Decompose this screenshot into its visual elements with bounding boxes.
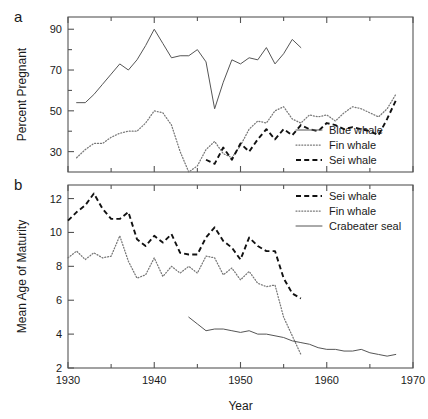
legend-label: Crabeater seal [329, 220, 401, 232]
x-axis-title: Year [228, 399, 252, 413]
series-sei-whale [68, 193, 301, 298]
y-tick-label: 4 [56, 328, 62, 340]
x-tick-label: 1960 [315, 374, 339, 386]
panel-a: 30507090Percent PregnantBlue whaleFin wh… [15, 17, 413, 172]
y-tick-label: 8 [56, 260, 62, 272]
y-tick-label: 12 [50, 193, 62, 205]
y-axis-title-b: Mean Age of Maturity [15, 220, 29, 333]
panel-label-a: a [14, 8, 23, 25]
legend-label: Sei whale [329, 190, 377, 202]
series-blue-whale [77, 29, 301, 109]
x-tick-label: 1950 [228, 374, 252, 386]
y-tick-label: 6 [56, 294, 62, 306]
legend-b: Sei whaleFin whaleCrabeater seal [296, 190, 401, 232]
x-tick-label: 1940 [142, 374, 166, 386]
x-tick-label: 1970 [401, 374, 425, 386]
series-crabeater-seal [189, 317, 396, 356]
legend-label: Fin whale [329, 139, 376, 151]
y-tick-label: 50 [50, 105, 62, 117]
y-tick-label: 2 [56, 362, 62, 374]
y-tick-label: 30 [50, 146, 62, 158]
y-axis-title-a: Percent Pregnant [15, 47, 29, 141]
panel-label-b: b [14, 176, 22, 193]
panel-b: 1930194019501960197024681012Mean Age of … [15, 185, 425, 386]
y-tick-label: 90 [50, 23, 62, 35]
legend-label: Sei whale [329, 154, 377, 166]
legend-a: Blue whaleFin whaleSei whale [296, 124, 383, 166]
legend-label: Fin whale [329, 205, 376, 217]
x-tick-label: 1930 [56, 374, 80, 386]
legend-label: Blue whale [329, 124, 383, 136]
y-tick-label: 10 [50, 226, 62, 238]
y-tick-label: 70 [50, 64, 62, 76]
figure-container: 30507090Percent PregnantBlue whaleFin wh… [0, 0, 428, 419]
figure-svg: 30507090Percent PregnantBlue whaleFin wh… [0, 0, 428, 419]
